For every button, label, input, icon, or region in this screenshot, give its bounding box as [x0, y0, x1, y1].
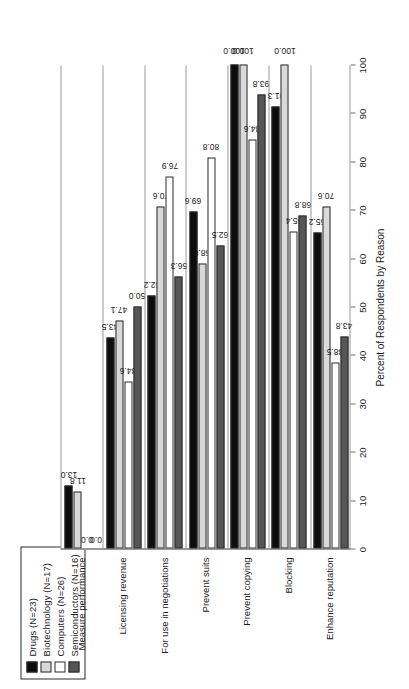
- bar-group: 69.658.880.862.5: [189, 65, 225, 548]
- bar-row: 0.0: [82, 65, 90, 548]
- bar: [198, 263, 206, 548]
- bar-value-label: 84.6: [248, 119, 256, 136]
- bar: [239, 64, 247, 548]
- bar-value-label: 47.1: [115, 301, 123, 318]
- bar-row: 56.3: [174, 65, 182, 548]
- bar-row: 93.8: [257, 65, 265, 548]
- bar: [133, 306, 141, 548]
- axis-tick-label: 10: [357, 495, 367, 506]
- axis-tick: [350, 403, 355, 404]
- bar: [322, 206, 330, 548]
- legend-item-label: Biotechnology (N=17): [41, 562, 51, 656]
- chart-figure-rotor: Drugs (N=23)Biotechnology (N=17)Computer…: [0, 0, 409, 689]
- bar-value-label: 100.0: [280, 40, 288, 61]
- bar: [313, 232, 321, 548]
- bar-group: 100.0100.084.693.8: [230, 65, 266, 548]
- bar-value-label: 62.5: [216, 226, 224, 243]
- bar-value-label: 65.4: [289, 212, 297, 229]
- bar-row: 70.6: [322, 65, 330, 548]
- bar: [216, 246, 224, 549]
- bar-value-label: 34.6: [124, 361, 132, 378]
- bar: [257, 94, 265, 548]
- bar-row: 62.5: [216, 65, 224, 548]
- bar-value-label: 56.3: [174, 256, 182, 273]
- bar-row: 47.1: [115, 65, 123, 548]
- bar-row: 34.6: [124, 65, 132, 548]
- bar-value-label: 93.8: [257, 74, 265, 91]
- axis-tick-label: 0: [357, 546, 367, 551]
- value-axis: 0102030405060708090100: [350, 65, 392, 549]
- bar-row: 84.6: [248, 65, 256, 548]
- axis-tick-label: 80: [357, 157, 367, 168]
- bar-value-label: 65.2: [313, 213, 321, 230]
- bar: [230, 64, 238, 548]
- bar-group: 52.270.676.956.3: [147, 65, 183, 548]
- bar-value-label: 50.0: [133, 286, 141, 303]
- bar-group: 91.3100.065.468.8: [271, 65, 307, 548]
- bar-row: 43.8: [340, 65, 348, 548]
- bar-value-label: 68.8: [298, 195, 306, 212]
- bar: [124, 381, 132, 548]
- bar-row: 65.4: [289, 65, 297, 548]
- bar-row: 80.8: [207, 65, 215, 548]
- bar-row: 100.0: [280, 65, 288, 548]
- bar-group: 65.270.638.543.8: [313, 65, 349, 548]
- bar-row: 65.2: [313, 65, 321, 548]
- bar-row: 50.0: [133, 65, 141, 548]
- bar: [331, 362, 339, 548]
- bar-row: 70.6: [156, 65, 164, 548]
- bar: [289, 231, 297, 548]
- bar: [165, 176, 173, 548]
- bar-value-label: 11.8: [73, 472, 81, 488]
- axis-tick: [350, 451, 355, 452]
- group-separator: [144, 65, 145, 548]
- legend-item-label: Drugs (N=23): [27, 598, 37, 656]
- category-label: Enhance reputation: [324, 557, 334, 639]
- category-label: Blocking: [283, 557, 293, 593]
- axis-tick-label: 40: [357, 350, 367, 361]
- plot-area: 13.011.80.00.043.547.134.650.052.270.676…: [60, 65, 350, 549]
- bar-row: 100.0: [230, 65, 238, 548]
- axis-tick: [350, 258, 355, 259]
- bar-row: 11.8: [73, 65, 81, 548]
- legend-item-1: Drugs (N=23): [26, 554, 37, 672]
- axis-tick: [350, 161, 355, 162]
- axis-tick-label: 50: [357, 302, 367, 313]
- bar-value-label: 43.8: [340, 316, 348, 333]
- bar-value-label: 58.8: [198, 244, 206, 261]
- legend-item-2: Biotechnology (N=17): [40, 554, 51, 672]
- bar-row: 68.8: [298, 65, 306, 548]
- bar-value-label: 100.0: [239, 40, 247, 61]
- bar-row: 91.3: [271, 65, 279, 548]
- bar: [147, 295, 155, 548]
- bar-value-label: 38.5: [331, 342, 339, 359]
- group-separator: [102, 65, 103, 548]
- bar-value-label: 43.5: [106, 318, 114, 335]
- bar-value-label: 80.8: [207, 137, 215, 154]
- axis-tick-label: 100: [357, 57, 367, 73]
- axis-tick-label: 90: [357, 108, 367, 119]
- bar-chart-figure: Drugs (N=23)Biotechnology (N=17)Computer…: [0, 0, 409, 689]
- group-separator: [185, 65, 186, 548]
- bar-value-label: 69.6: [189, 192, 197, 209]
- bar: [340, 336, 348, 548]
- axis-tick-label: 30: [357, 399, 367, 410]
- axis-tick-label: 20: [357, 447, 367, 458]
- bar-group: 13.011.80.00.0: [64, 65, 100, 548]
- value-axis-title: Percent of Respondents by Reason: [374, 65, 385, 549]
- legend-swatch-drugs: [26, 661, 37, 672]
- axis-tick-label: 70: [357, 205, 367, 216]
- axis-tick: [350, 500, 355, 501]
- bar: [106, 337, 114, 548]
- bar-value-label: 0.0: [91, 533, 99, 545]
- axis-tick-label: 60: [357, 253, 367, 264]
- axis-tick: [350, 209, 355, 210]
- bar: [189, 211, 197, 548]
- bar-row: 38.5: [331, 65, 339, 548]
- group-separator: [310, 65, 311, 548]
- bar: [271, 106, 279, 548]
- bar: [298, 215, 306, 548]
- bar: [174, 276, 182, 548]
- group-separator: [227, 65, 228, 548]
- bar-row: 100.0: [239, 65, 247, 548]
